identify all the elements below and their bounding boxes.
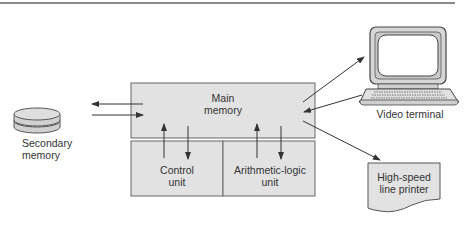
- alu-label-line2: unit: [224, 176, 316, 188]
- alu-label-line1: Arithmetic-logic: [224, 164, 316, 176]
- secondary-memory-label-line2: memory: [22, 149, 78, 161]
- printer-label-line2: line printer: [368, 183, 440, 195]
- printer-label: High-speed line printer: [368, 171, 440, 195]
- control-unit-label-line2: unit: [147, 176, 207, 188]
- printer-label-line1: High-speed: [368, 171, 440, 183]
- disk-icon: [14, 108, 60, 133]
- secondary-memory-label-line1: Secondary: [22, 137, 78, 149]
- control-unit-label-line1: Control: [147, 164, 207, 176]
- main-memory-label-line2: memory: [193, 104, 253, 116]
- control-unit-label: Control unit: [147, 164, 207, 188]
- video-terminal-icon: [359, 27, 459, 105]
- main-memory-label-line1: Main: [193, 92, 253, 104]
- alu-label: Arithmetic-logic unit: [224, 164, 316, 188]
- arrow-main-to-terminal: [303, 57, 364, 102]
- video-terminal-label: Video terminal: [365, 108, 455, 120]
- secondary-memory-label: Secondary memory: [22, 137, 78, 161]
- main-memory-label: Main memory: [193, 92, 253, 116]
